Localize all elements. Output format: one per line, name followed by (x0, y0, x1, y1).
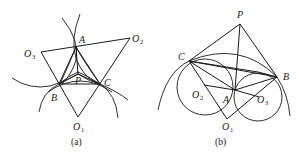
label-b-o3: O (257, 94, 264, 105)
label-a-point-p: P (74, 75, 81, 86)
diagram-a: A B C P O 3 O 2 O 1 (a) (12, 14, 143, 148)
line-p-b (240, 24, 277, 77)
label-b-point-b: B (283, 71, 289, 82)
line-b-o1 (227, 77, 277, 119)
label-a-o1-sub: 1 (81, 126, 84, 133)
diagram-b: P C B A O 2 O 3 O 1 (b) (158, 9, 290, 148)
line-o3-o2 (41, 38, 130, 52)
label-a-point-c: C (104, 77, 111, 88)
label-b-o2: O (192, 89, 199, 100)
label-a-o2: O (132, 33, 139, 44)
line-p-c (189, 24, 240, 61)
label-b-o3-sub: 3 (265, 99, 268, 106)
geometry-figure: A B C P O 3 O 2 O 1 (a) P C (0, 0, 299, 160)
label-b-point-c: C (178, 51, 185, 62)
label-a-o3-sub: 3 (32, 53, 35, 60)
label-b-point-a: A (222, 94, 230, 105)
line-b-a (235, 77, 277, 90)
label-b-o1-sub: 1 (230, 126, 233, 133)
line-p-a (235, 24, 240, 90)
label-a-point-a: A (78, 34, 86, 45)
label-b-o1: O (222, 121, 229, 132)
label-a-o3: O (24, 48, 31, 59)
label-b-o2-sub: 2 (200, 94, 203, 101)
caption-a: (a) (71, 137, 82, 148)
arc-inner-left (60, 47, 76, 84)
label-a-o1: O (73, 121, 80, 132)
line-a-o3 (235, 90, 259, 97)
label-b-point-p: P (236, 9, 243, 20)
caption-b: (b) (215, 137, 226, 148)
label-a-point-b: B (51, 92, 57, 103)
label-a-o2-sub: 2 (140, 38, 143, 45)
circle-o2 (177, 59, 233, 115)
